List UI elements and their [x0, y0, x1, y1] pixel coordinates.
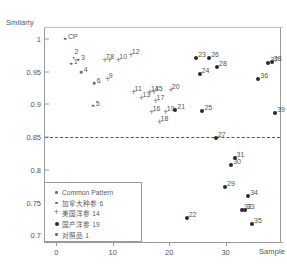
- data-point-5: 5: [92, 104, 95, 107]
- data-point-9: 9: [105, 77, 111, 82]
- data-point-label: 31: [237, 151, 245, 158]
- data-point-label: 25: [204, 104, 212, 111]
- legend-marker-icon: [51, 210, 62, 216]
- x-axis-line: [44, 242, 283, 243]
- data-point-marker: [93, 82, 96, 85]
- legend-marker-icon: [51, 222, 62, 226]
- legend-marker-icon: [51, 191, 62, 194]
- y-tick-mark: [45, 71, 49, 72]
- data-point-label: 38: [274, 55, 282, 62]
- data-point-label: 4: [84, 66, 88, 73]
- data-point-34: 34: [246, 194, 250, 198]
- data-point-3: 3: [77, 58, 80, 61]
- data-point-11: 11: [131, 89, 137, 94]
- data-point-17: 17: [153, 99, 159, 104]
- y-tick-mark: [45, 137, 49, 138]
- data-point-label: 23: [198, 51, 206, 58]
- data-point-23: 23: [194, 56, 198, 60]
- data-point-label: CP: [68, 33, 78, 40]
- data-point-label: 10: [119, 52, 127, 59]
- data-point-12: 12: [128, 52, 134, 57]
- data-point-25: 25: [200, 109, 204, 113]
- x-tick-mark: [56, 242, 57, 246]
- data-point-21: 21: [173, 108, 177, 112]
- legend-marker-icon: [51, 233, 62, 236]
- y-axis-label: Smilarty: [6, 18, 34, 27]
- data-point-28: 28: [215, 65, 219, 69]
- data-point-18: 18: [157, 120, 163, 125]
- data-point-marker: [77, 58, 80, 61]
- data-point-label: 33: [247, 203, 255, 210]
- data-point-label: 34: [250, 189, 258, 196]
- data-point-24: 24: [198, 72, 202, 76]
- data-point-label: 9: [109, 72, 113, 79]
- data-point-10: 10: [115, 57, 121, 62]
- data-point-label: 35: [254, 217, 262, 224]
- data-point-33: 33: [243, 208, 247, 212]
- data-point-16: 16: [149, 110, 155, 115]
- data-point-19: 19: [163, 110, 169, 115]
- legend-label: 美国洋参 14: [62, 208, 100, 218]
- y-tick-label: 0.85: [26, 133, 45, 142]
- legend-label: Common Pattern: [62, 189, 113, 196]
- data-point-label: 8: [110, 52, 114, 59]
- data-point-4: 4: [80, 71, 83, 74]
- data-point-6: 6: [93, 82, 96, 85]
- data-point-label: 27: [218, 131, 226, 138]
- data-point-label: 21: [177, 103, 185, 110]
- y-tick-label: 0.9: [31, 100, 45, 109]
- data-point-marker: [80, 71, 83, 74]
- legend-label: 国产洋参 19: [62, 219, 100, 229]
- data-point-label: 15: [155, 84, 163, 91]
- data-point-2: 2: [72, 57, 75, 60]
- data-point-label: 16: [153, 105, 161, 112]
- data-point-13: 13: [138, 96, 144, 101]
- scatter-chart-figure: Smilarty Sample 10.950.90.850.80.750.7 0…: [0, 0, 287, 272]
- x-tick-mark: [226, 242, 227, 246]
- legend-label: 对照品 1: [62, 230, 89, 240]
- data-point-label: 28: [219, 60, 227, 67]
- y-tick-mark: [45, 38, 49, 39]
- data-point-label: 26: [211, 51, 219, 58]
- legend-row: 美国洋参 14: [51, 208, 141, 219]
- data-point-label: 20: [172, 82, 180, 89]
- threshold-line: [45, 137, 280, 138]
- y-tick-mark: [45, 169, 49, 170]
- data-point-26: 26: [207, 56, 211, 60]
- data-point-label: 2: [74, 48, 78, 55]
- data-point-38: 38: [270, 60, 274, 64]
- data-point-29: 29: [223, 185, 227, 189]
- data-point-36: 36: [256, 77, 260, 81]
- x-tick-mark: [169, 242, 170, 246]
- x-axis-label: Sample: [259, 247, 285, 256]
- data-point-label: 39: [277, 106, 285, 113]
- data-point-39: 39: [273, 111, 277, 115]
- y-tick-mark: [45, 104, 49, 105]
- legend-row: 国产洋参 19: [51, 219, 141, 230]
- data-point-label: 11: [135, 84, 142, 91]
- data-point-35: 35: [250, 222, 254, 226]
- data-point-label: 3: [81, 53, 85, 60]
- y-tick-label: 0.8: [31, 165, 45, 174]
- data-point-8: 8: [106, 57, 112, 62]
- data-point-label: 29: [227, 180, 235, 187]
- data-point-20: 20: [168, 87, 174, 92]
- data-point-27: 27: [214, 136, 218, 140]
- data-point-30: 30: [229, 163, 233, 167]
- data-point-31: 31: [233, 156, 237, 160]
- data-point-marker: [64, 38, 67, 41]
- data-point-1: 1: [70, 62, 73, 65]
- y-tick-label: 0.7: [31, 231, 45, 240]
- data-point-label: 12: [132, 47, 140, 54]
- data-point-22: 22: [185, 216, 189, 220]
- legend-label: 加拿大种参 6: [62, 198, 103, 208]
- data-point-label: 17: [157, 94, 165, 101]
- chart-legend: Common Pattern加拿大种参 6美国洋参 14国产洋参 19对照品 1: [44, 182, 142, 242]
- legend-row: Common Pattern: [51, 187, 141, 198]
- data-point-CP: CP: [64, 38, 67, 41]
- data-point-label: 24: [202, 67, 210, 74]
- y-tick-label: 1: [37, 34, 45, 43]
- data-point-label: 36: [260, 72, 268, 79]
- y-tick-label: 0.75: [26, 198, 45, 207]
- data-point-label: 5: [96, 99, 100, 106]
